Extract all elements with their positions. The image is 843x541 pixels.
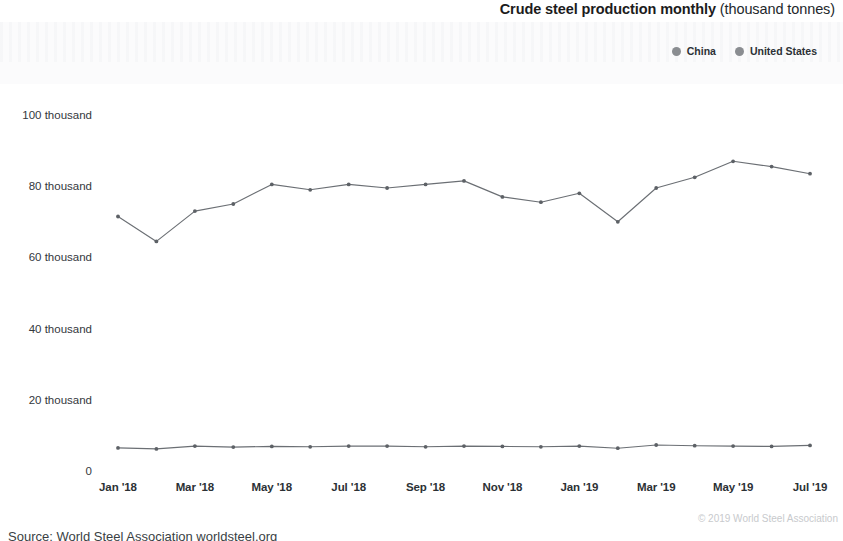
source-note: Source: World Steel Association worldste… <box>8 529 277 541</box>
data-point-marker[interactable] <box>654 186 658 190</box>
data-point-marker[interactable] <box>116 446 120 450</box>
data-point-marker[interactable] <box>577 191 581 195</box>
series-line <box>118 161 810 241</box>
data-point-marker[interactable] <box>577 444 581 448</box>
data-point-marker[interactable] <box>539 445 543 449</box>
data-point-marker[interactable] <box>347 444 351 448</box>
data-point-marker[interactable] <box>731 444 735 448</box>
data-point-marker[interactable] <box>462 179 466 183</box>
data-point-marker[interactable] <box>616 446 620 450</box>
data-point-marker[interactable] <box>424 445 428 449</box>
data-point-marker[interactable] <box>308 188 312 192</box>
data-point-marker[interactable] <box>808 444 812 448</box>
data-point-marker[interactable] <box>193 444 197 448</box>
data-point-marker[interactable] <box>770 445 774 449</box>
data-point-marker[interactable] <box>231 445 235 449</box>
data-point-marker[interactable] <box>693 444 697 448</box>
data-point-marker[interactable] <box>155 447 159 451</box>
data-point-marker[interactable] <box>770 165 774 169</box>
data-point-marker[interactable] <box>616 220 620 224</box>
data-point-marker[interactable] <box>270 183 274 187</box>
data-point-marker[interactable] <box>308 445 312 449</box>
series-canvas <box>0 0 843 541</box>
data-point-marker[interactable] <box>501 195 505 199</box>
data-point-marker[interactable] <box>539 200 543 204</box>
data-point-marker[interactable] <box>385 186 389 190</box>
data-point-marker[interactable] <box>347 183 351 187</box>
data-point-marker[interactable] <box>231 202 235 206</box>
data-point-marker[interactable] <box>693 175 697 179</box>
copyright-note: © 2019 World Steel Association <box>698 513 838 524</box>
data-point-marker[interactable] <box>731 159 735 163</box>
data-point-marker[interactable] <box>270 445 274 449</box>
data-point-marker[interactable] <box>385 444 389 448</box>
data-point-marker[interactable] <box>462 444 466 448</box>
data-point-marker[interactable] <box>424 183 428 187</box>
data-point-marker[interactable] <box>155 240 159 244</box>
data-point-marker[interactable] <box>654 443 658 447</box>
data-point-marker[interactable] <box>116 215 120 219</box>
data-point-marker[interactable] <box>193 209 197 213</box>
chart-page: Crude steel production monthly (thousand… <box>0 0 843 541</box>
plot-area: 020 thousand40 thousand60 thousand80 tho… <box>0 0 843 541</box>
data-point-marker[interactable] <box>501 445 505 449</box>
data-point-marker[interactable] <box>808 172 812 176</box>
